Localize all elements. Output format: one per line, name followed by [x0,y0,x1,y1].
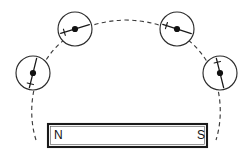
compass-4 [203,56,237,90]
south-pole-label: S [197,128,205,142]
compass-group [16,12,237,90]
needle-pivot [72,26,78,32]
needle-pivot [217,70,223,76]
north-pole-label: N [54,128,63,142]
needle-pivot [30,70,36,76]
figure-root: N S [0,0,251,159]
bar-magnet: N S [48,124,207,147]
compass-3 [160,12,194,46]
compass-2 [58,12,92,46]
field-line-diagram: N S [0,0,251,159]
needle-pivot [174,26,180,32]
compass-1 [16,56,50,90]
bar-magnet-body [48,124,207,147]
